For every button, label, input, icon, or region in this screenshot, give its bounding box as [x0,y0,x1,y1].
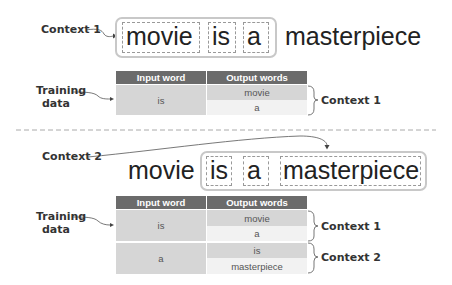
brace-context-1-label: Context 1 [321,94,381,107]
output-cell: movie [207,210,307,226]
sentence-word-is: is [212,24,230,49]
header-output-words: Output words [207,71,307,84]
header-input-word: Input word [116,71,206,84]
output-cell: a [207,100,307,115]
brace-context-2-label: Context 2 [321,251,381,264]
header-output-words: Output words [207,196,307,209]
sentence-word-is: is [210,158,228,183]
training-data-label: Training data [36,210,76,236]
sentence-word-a: a [247,158,261,183]
context-1-label: Context 1 [41,23,101,36]
output-cell: masterpiece [207,258,307,274]
header-input-word: Input word [116,196,206,209]
brace-context-1-label: Context 1 [321,220,381,233]
output-cell: movie [207,85,307,100]
output-cell: is [207,243,307,258]
sentence-word-movie: movie [128,158,195,183]
output-cell: a [207,226,307,241]
input-cell: a [116,243,206,274]
sentence-word-masterpiece: masterpiece [285,24,421,49]
input-cell: is [116,85,206,115]
training-data-label: Training data [36,84,76,110]
context-2-label: Context 2 [42,150,102,163]
training-table-2: Input word Output words is movie a a is … [116,196,307,274]
sentence-word-movie: movie [126,24,193,49]
sentence-word-a: a [247,24,261,49]
sentence-word-masterpiece: masterpiece [283,158,419,183]
input-cell: is [116,210,206,241]
training-table-1: Input word Output words is movie a [116,71,307,115]
